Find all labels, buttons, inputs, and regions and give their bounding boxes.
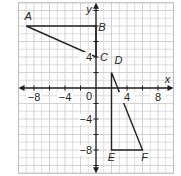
x-axis-label: x [164,73,171,85]
point-label-a: A [24,10,32,22]
origin-label: 0 [86,90,92,102]
point-label-d: D [115,54,123,66]
y-axis-label: y [85,3,93,15]
coordinate-plane: −8−4484−4−80xyABCDEF [0,0,181,176]
point-label-e: E [108,151,116,163]
labels: −8−4484−4−80xyABCDEF [24,3,171,163]
y-axis-arrow-down-icon [93,167,99,173]
x-tick-label: 8 [155,91,161,103]
x-tick-label: −8 [28,91,41,103]
point-label-c: C [100,51,108,63]
y-tick-label: 4 [86,51,92,63]
point-label-b: B [98,21,105,33]
y-axis-arrow-up-icon [93,3,99,9]
x-axis-arrow-right-icon [168,85,174,91]
x-axis-arrow-left-icon [19,85,25,91]
point-label-f: F [141,151,149,163]
x-tick-label: −4 [59,91,72,103]
y-tick-label: −8 [79,144,92,156]
x-tick-label: 4 [124,91,130,103]
y-tick-label: −4 [79,113,92,125]
